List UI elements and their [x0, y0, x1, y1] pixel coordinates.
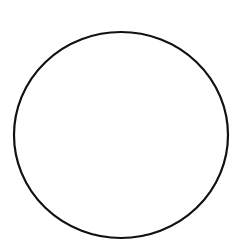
circle-outline [14, 32, 228, 238]
drawing-canvas [0, 0, 247, 242]
circle-drawing [0, 0, 247, 242]
